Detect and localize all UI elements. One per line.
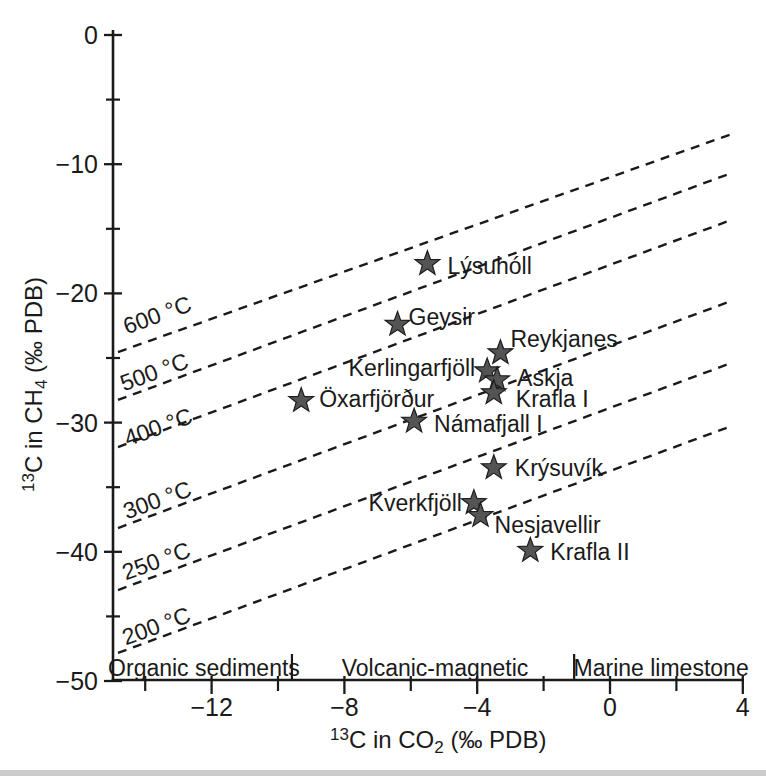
y-tick-label: −40 [56,538,98,566]
data-point-label-geysir: Geysir [409,304,476,330]
data-point-star-n-mafjall-i [402,408,427,432]
x-tick-label: −4 [463,693,492,721]
isotherm-label-600C: 600 °C [120,291,195,340]
data-point-star-kr-suv-k [481,455,506,479]
x-tick-label: 0 [603,693,617,721]
isotherm-label-500C: 500 °C [117,348,192,397]
data-point-label-kerlingarfj-ll: Kerlingarfjöll [349,355,476,381]
y-axis-title: 13​C in CH4​ (‰ PDB) [19,277,51,492]
data-point-label-kr-suv-k: Krýsuvík [515,455,604,481]
x-axis-title: 13​C in CO2​ (‰ PDB) [330,725,546,757]
data-point-star-krafla-ii [518,538,543,562]
x-tick-label: 4 [736,693,750,721]
data-point-star-geysir [385,311,410,335]
isotherm-label-300C: 300 °C [120,476,195,525]
isotherm-label-250C: 250 °C [119,537,194,586]
data-point-label-l-suh-ll: Lýsuhóll [447,253,531,279]
data-point-label-krafla-ii: Krafla II [550,539,629,565]
x-tick-label: −8 [330,693,359,721]
data-point-star--xarfj-r-ur [289,388,314,412]
y-tick-label: −20 [56,279,98,307]
scan-edge-strip [0,770,766,776]
region-label-volcanic-magnetic: Volcanic-magnetic [342,655,529,681]
y-tick-label: 0 [84,21,98,49]
y-tick-label: −30 [56,409,98,437]
region-label-marine-limestone: Marine limestone [574,655,749,681]
data-point-star-reykjanes [488,340,513,364]
data-point-star-l-suh-ll [415,251,440,275]
region-label-organic-sediments: Organic sediments [108,655,300,681]
x-tick-label: −12 [190,693,232,721]
data-point-label-n-mafjall-i: Námafjall I [434,411,543,437]
data-point-label--xarfj-r-ur: Öxarfjörður [319,386,434,412]
data-point-label-nesjavellir: Nesjavellir [495,512,601,538]
isotherm-line-400C [118,220,731,447]
data-point-label-krafla-i: Krafla I [516,386,589,412]
chart-svg: 600 °C500 °C400 °C300 °C250 °C200 °C0−10… [0,0,766,776]
isotherm-label-200C: 200 °C [119,602,194,651]
data-point-label-reykjanes: Reykjanes [510,326,617,352]
y-tick-label: −50 [56,667,98,695]
y-tick-label: −10 [56,150,98,178]
data-point-label-kverkfj-ll: Kverkfjöll [369,490,462,516]
isotherm-line-200C [118,426,731,653]
figure-canvas: 600 °C500 °C400 °C300 °C250 °C200 °C0−10… [0,0,766,776]
isotherm-label-400C: 400 °C [121,403,196,452]
